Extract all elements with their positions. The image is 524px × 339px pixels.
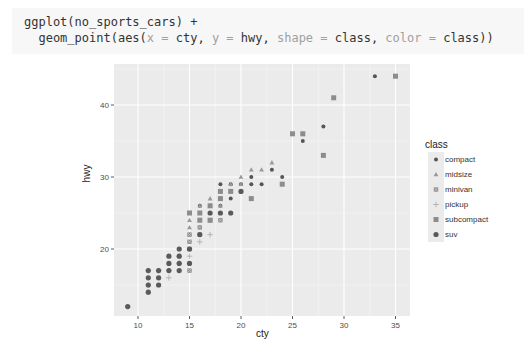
y-axis-title: hwy bbox=[81, 165, 92, 183]
y-tick-label: 40 bbox=[100, 101, 109, 110]
x-tick-label: 10 bbox=[134, 321, 143, 330]
x-tick-label: 35 bbox=[391, 321, 400, 330]
legend-key-minivan bbox=[428, 182, 444, 197]
legend-key-subcompact bbox=[428, 212, 444, 227]
x-tick-label: 20 bbox=[237, 321, 246, 330]
legend-key-midsize bbox=[428, 167, 444, 182]
legend-label: suv bbox=[445, 230, 457, 239]
x-tick-label: 15 bbox=[185, 321, 194, 330]
legend-key-suv bbox=[428, 227, 444, 242]
legend-label: pickup bbox=[445, 200, 468, 209]
x-axis-title: cty bbox=[256, 328, 269, 339]
legend-key-pickup bbox=[428, 197, 444, 212]
x-tick-label: 25 bbox=[288, 321, 297, 330]
x-tick-label: 30 bbox=[340, 321, 349, 330]
legend-title: class bbox=[425, 139, 448, 150]
legend-label: compact bbox=[445, 155, 475, 164]
legend-key-compact bbox=[428, 152, 444, 167]
y-tick-label: 30 bbox=[100, 173, 109, 182]
legend-label: subcompact bbox=[445, 215, 488, 224]
legend-label: minivan bbox=[445, 185, 473, 194]
y-tick-label: 20 bbox=[100, 245, 109, 254]
legend-label: midsize bbox=[445, 170, 472, 179]
